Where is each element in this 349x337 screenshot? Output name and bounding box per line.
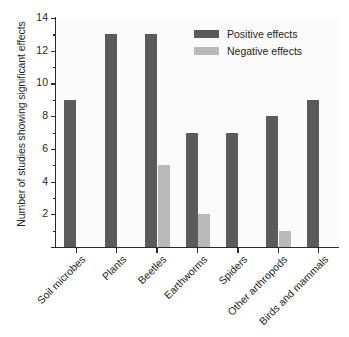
bar <box>145 34 157 247</box>
x-axis-label: Birds and mammals <box>256 253 330 327</box>
y-tick-label: 4 <box>26 176 48 187</box>
legend-swatch <box>194 47 219 56</box>
chart-legend: Positive effectsNegative effects <box>194 27 302 61</box>
x-axis-labels: Soil microbesPlantsBeetlesEarthwormsSpid… <box>0 247 349 337</box>
y-axis-title: Number of studies showing significant ef… <box>15 9 27 239</box>
y-tick-label: 6 <box>26 143 48 154</box>
legend-label: Positive effects <box>227 28 297 40</box>
bar <box>198 214 210 247</box>
bar <box>266 116 278 247</box>
bar-chart: Number of studies showing significant ef… <box>0 0 349 337</box>
legend-label: Negative effects <box>227 45 302 57</box>
bar <box>186 133 198 248</box>
x-axis-label: Spiders <box>216 253 250 287</box>
legend-item: Positive effects <box>194 27 302 41</box>
x-axis-label: Soil microbes <box>35 253 88 306</box>
legend-swatch <box>194 30 219 39</box>
x-axis-label: Plants <box>99 253 128 282</box>
bar <box>307 100 319 247</box>
x-axis-label: Beetles <box>135 253 168 286</box>
legend-item: Negative effects <box>194 44 302 58</box>
y-tick-label: 14 <box>26 12 48 23</box>
bar <box>64 100 76 247</box>
bar <box>279 231 291 247</box>
bar <box>105 34 117 247</box>
y-tick-label: 12 <box>26 45 48 56</box>
y-tick-label: 8 <box>26 110 48 121</box>
bar <box>158 165 170 247</box>
y-tick-label: 10 <box>26 77 48 88</box>
bar <box>226 133 238 248</box>
y-tick-label: 2 <box>26 208 48 219</box>
